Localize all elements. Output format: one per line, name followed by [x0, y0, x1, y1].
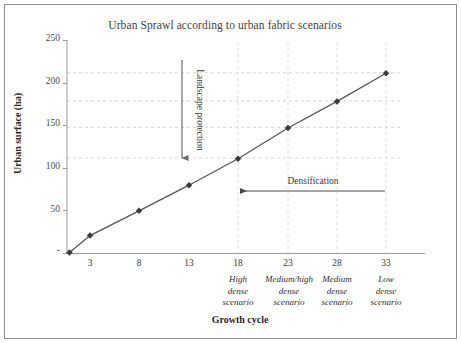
plot-area [0, 0, 461, 343]
annotation-densification: Densification [258, 176, 368, 186]
data-markers [66, 70, 389, 256]
annotation-landscape-protection: Landscape protection [195, 60, 205, 160]
chart-canvas: Urban Sprawl according to urban fabric s… [0, 0, 461, 343]
horizontal-gridlines [67, 73, 400, 158]
vertical-gridlines [238, 42, 386, 253]
